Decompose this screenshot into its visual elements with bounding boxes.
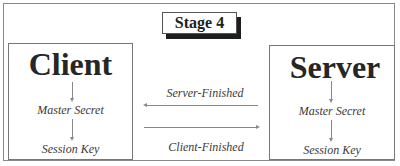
server-session-key: Session Key xyxy=(270,143,394,158)
server-arrow-2-line xyxy=(331,120,332,140)
client-arrow-1-head-icon xyxy=(70,98,74,102)
client-arrow-2-head-icon xyxy=(70,137,74,141)
client-title: Client xyxy=(9,48,132,80)
server-arrow-1-head-icon xyxy=(329,99,333,103)
client-session-key: Session Key xyxy=(9,142,132,157)
server-title: Server xyxy=(276,51,394,83)
client-arrow-2-line xyxy=(72,119,73,139)
server-master-secret: Master Secret xyxy=(270,104,394,119)
left-arrowhead-icon xyxy=(143,103,147,107)
client-master-secret: Master Secret xyxy=(9,103,132,118)
client-box: Client Master Secret Session Key xyxy=(8,43,133,160)
client-finished-arrow-line xyxy=(144,127,256,128)
server-finished-arrow-line xyxy=(146,105,258,106)
server-arrow-1-line xyxy=(331,81,332,101)
right-arrowhead-icon xyxy=(256,125,260,129)
stage-label: Stage 4 xyxy=(162,12,237,34)
client-finished-label: Client-Finished xyxy=(146,140,266,155)
server-arrow-2-head-icon xyxy=(329,138,333,142)
server-box: Server Master Secret Session Key xyxy=(269,45,395,160)
server-finished-label: Server-Finished xyxy=(145,86,265,101)
